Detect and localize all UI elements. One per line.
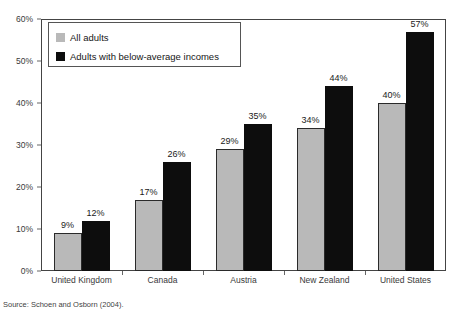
bar — [378, 103, 406, 271]
legend-swatch-icon-all-adults — [56, 33, 65, 42]
x-axis-tick-label: Canada — [148, 275, 178, 285]
bar — [406, 32, 434, 271]
bar-value-label: 9% — [61, 220, 74, 230]
y-axis-tick-label: 10% — [16, 224, 33, 234]
y-axis-tick-label: 30% — [16, 140, 33, 150]
legend-item-below-average-incomes: Adults with below-average incomes — [56, 48, 233, 65]
bar-value-label: 35% — [248, 111, 266, 121]
bar-value-label: 57% — [410, 19, 428, 29]
x-axis-tick-label: United States — [380, 275, 431, 285]
bar — [244, 124, 272, 271]
chart-legend: All adults Adults with below-average inc… — [48, 22, 241, 67]
source-note: Source: Schoen and Osborn (2004). — [3, 300, 124, 309]
y-axis-tick-label: 0% — [21, 266, 33, 276]
x-axis-tick-label: Austria — [230, 275, 256, 285]
legend-label-all-adults: All adults — [70, 32, 109, 43]
x-axis-tick-label: United Kingdom — [51, 275, 111, 285]
bar — [325, 86, 353, 271]
y-axis-tick-label: 40% — [16, 98, 33, 108]
bar — [82, 221, 110, 271]
bar-value-label: 29% — [220, 136, 238, 146]
bar — [297, 128, 325, 271]
y-axis-tick-label: 60% — [16, 14, 33, 24]
bar-chart-figure: 0%10%20%30%40%50%60% United KingdomCanad… — [0, 0, 461, 321]
legend-label-below-average-incomes: Adults with below-average incomes — [70, 51, 219, 62]
y-axis-tick-label: 50% — [16, 56, 33, 66]
legend-swatch-icon-below-average-incomes — [56, 52, 65, 61]
legend-item-all-adults: All adults — [56, 29, 233, 46]
bar-value-label: 12% — [86, 208, 104, 218]
x-axis: United KingdomCanadaAustriaNew ZealandUn… — [41, 273, 446, 291]
bar-value-label: 40% — [382, 90, 400, 100]
bar — [216, 149, 244, 271]
bar-value-label: 17% — [139, 187, 157, 197]
y-axis-tick-label: 20% — [16, 182, 33, 192]
bar — [163, 162, 191, 271]
bar-value-label: 34% — [301, 115, 319, 125]
bar — [54, 233, 82, 271]
x-axis-tick-label: New Zealand — [299, 275, 349, 285]
bar-value-label: 44% — [329, 73, 347, 83]
y-axis: 0%10%20%30%40%50%60% — [0, 19, 41, 271]
bar-value-label: 26% — [167, 149, 185, 159]
bar — [135, 200, 163, 271]
